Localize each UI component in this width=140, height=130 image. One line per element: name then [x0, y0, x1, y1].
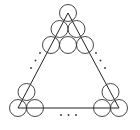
ellipsis-dot — [100, 60, 102, 62]
ellipsis-dot — [39, 52, 41, 54]
ellipsis-dot — [30, 67, 32, 69]
ellipsis-dot — [75, 114, 77, 116]
ellipsis-dot — [35, 60, 37, 62]
ellipsis-dot — [68, 114, 70, 116]
background — [0, 0, 140, 130]
ellipsis-dot — [104, 67, 106, 69]
ellipsis-dot — [60, 114, 62, 116]
ellipsis-dot — [95, 52, 97, 54]
circles-in-triangle-diagram — [0, 0, 140, 130]
